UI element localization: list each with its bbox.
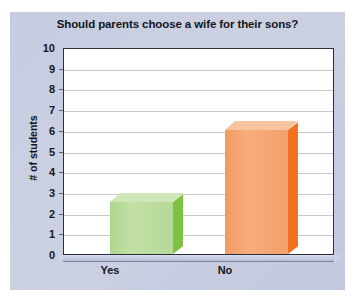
bar-yes[interactable] bbox=[110, 202, 173, 254]
bar-no-top-face bbox=[225, 121, 298, 130]
bar-yes-side-face bbox=[173, 194, 183, 254]
y-axis-tick-7: 7 bbox=[31, 105, 55, 116]
y-axis-tick-10: 10 bbox=[31, 43, 55, 54]
gridline bbox=[64, 90, 333, 91]
y-axis-tick-9: 9 bbox=[31, 64, 55, 75]
chart-title: Should parents choose a wife for their s… bbox=[10, 18, 345, 30]
x-axis-label-yes: Yes bbox=[70, 264, 150, 276]
bar-yes-top-face bbox=[110, 193, 183, 202]
bar-no-side-face bbox=[288, 122, 298, 254]
bar-no[interactable] bbox=[225, 130, 288, 254]
y-axis-tick-8: 8 bbox=[31, 84, 55, 95]
x-axis-label-no: No bbox=[185, 264, 265, 276]
chart-figure: Should parents choose a wife for their s… bbox=[10, 12, 345, 290]
gridline bbox=[64, 111, 333, 112]
plot-area bbox=[63, 48, 334, 255]
y-axis-tick-5: 5 bbox=[31, 147, 55, 158]
floor-right-edge bbox=[334, 255, 343, 263]
y-axis-tick-4: 4 bbox=[31, 167, 55, 178]
y-axis-tick-0: 0 bbox=[31, 250, 55, 261]
y-axis-tick-6: 6 bbox=[31, 126, 55, 137]
bar-yes-front-face bbox=[110, 202, 173, 254]
y-axis-tick-1: 1 bbox=[31, 229, 55, 240]
bar-no-front-face bbox=[225, 130, 288, 254]
chart-floor bbox=[63, 255, 334, 262]
y-axis-tick-3: 3 bbox=[31, 188, 55, 199]
gridline bbox=[64, 70, 333, 71]
y-axis-tick-2: 2 bbox=[31, 209, 55, 220]
